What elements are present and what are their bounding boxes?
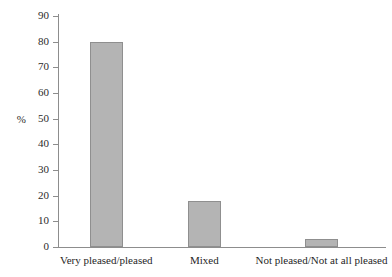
x-axis-category-label: Not pleased/Not at all pleased <box>256 253 388 267</box>
y-axis-tick: 0 <box>0 247 58 248</box>
y-axis-tick-label: 70 <box>38 60 49 73</box>
x-axis-category-label: Mixed <box>190 253 219 267</box>
y-axis-tick-label: 50 <box>38 112 49 125</box>
x-axis-category-label: Very pleased/pleased <box>60 253 153 267</box>
plot-area <box>58 16 386 247</box>
y-axis-tick-label: 80 <box>38 35 49 48</box>
y-axis-tick-label: 40 <box>38 137 49 150</box>
y-axis-tick-label: 20 <box>38 189 49 202</box>
y-axis-tick-label: 30 <box>38 163 49 176</box>
y-axis-tick-label: 60 <box>38 86 49 99</box>
bar <box>188 201 221 247</box>
y-axis-tick: 90 <box>0 16 58 17</box>
y-axis-tick-label: 90 <box>38 9 49 22</box>
y-axis-tick: 50 <box>0 119 58 120</box>
y-axis-tick: 10 <box>0 221 58 222</box>
y-axis-tick-label: 10 <box>38 214 49 227</box>
y-axis-tick: 20 <box>0 196 58 197</box>
y-axis-tick-label: 0 <box>44 240 50 253</box>
bar-chart: % 0102030405060708090 Very pleased/pleas… <box>0 0 392 277</box>
y-axis-tick: 30 <box>0 170 58 171</box>
y-axis-tick: 70 <box>0 67 58 68</box>
bar <box>305 239 338 247</box>
y-axis-tick: 60 <box>0 93 58 94</box>
bar <box>90 42 123 247</box>
x-axis-line <box>58 247 386 248</box>
y-axis-tick: 40 <box>0 144 58 145</box>
y-axis-tick: 80 <box>0 42 58 43</box>
y-axis-tick-mark <box>53 247 58 248</box>
